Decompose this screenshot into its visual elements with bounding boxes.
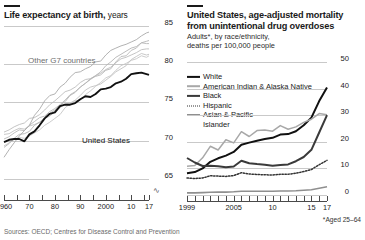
x-axis-tick xyxy=(304,196,305,201)
left-chart-title-bold: Life expectancy at birth, xyxy=(4,10,105,20)
y-axis-label: 85 xyxy=(151,18,173,27)
x-axis-tick xyxy=(195,196,196,201)
x-axis-tick xyxy=(68,195,69,200)
x-axis-tick xyxy=(149,195,150,200)
x-axis-tick xyxy=(280,196,281,201)
right-chart-title-line1: United States, age-adjusted mortality xyxy=(187,10,343,20)
x-axis-label: 2005 xyxy=(225,203,241,212)
right-chart-panel: United States, age-adjusted mortality fr… xyxy=(183,0,365,240)
y-axis-label: 50 xyxy=(329,54,349,63)
x-axis-label: 1999 xyxy=(179,203,195,212)
x-axis-tick xyxy=(80,195,81,200)
x-axis-tick xyxy=(106,195,107,200)
series-line xyxy=(4,73,149,143)
x-axis-tick xyxy=(144,195,145,200)
x-axis-tick xyxy=(131,195,132,200)
annotation-united-states: United States xyxy=(82,136,130,145)
x-axis-tick xyxy=(29,195,30,200)
y-axis-label: 80 xyxy=(151,56,173,65)
y-axis-label: 0 xyxy=(329,187,349,196)
x-axis-tick xyxy=(218,196,219,201)
x-axis-tick xyxy=(187,196,188,201)
x-axis-tick xyxy=(288,196,289,201)
x-axis-tick xyxy=(241,196,242,201)
x-axis-tick xyxy=(265,196,266,201)
title-rule xyxy=(4,5,20,7)
right-chart-title-line2: from unintentional drug overdoses xyxy=(187,21,334,31)
x-axis-tick xyxy=(17,195,18,200)
x-axis-line xyxy=(187,201,327,202)
x-axis-tick xyxy=(203,196,204,201)
x-axis-tick xyxy=(42,195,43,200)
right-chart-title: United States, age-adjusted mortality fr… xyxy=(187,10,365,31)
right-chart-subtitle-line1: Adults*, by race/ethnicity, xyxy=(187,32,269,41)
x-axis-label: 10 xyxy=(127,202,135,211)
y-axis-label: 20 xyxy=(329,133,349,142)
sources-note: Sources: OECD; Centres for Disease Contr… xyxy=(4,228,180,235)
x-axis-tick xyxy=(319,196,320,201)
x-axis-tick xyxy=(119,195,120,200)
x-axis-tick xyxy=(234,196,235,201)
right-chart-subtitle-line2: deaths per 100,000 people xyxy=(187,41,275,50)
left-plot-area: 6570758085196070809020001017∿Other G7 co… xyxy=(4,26,149,194)
x-axis-tick xyxy=(273,196,274,201)
y-axis-label: 10 xyxy=(329,160,349,169)
x-axis-tick xyxy=(249,196,250,201)
series-line xyxy=(4,56,149,146)
x-axis-tick xyxy=(4,195,5,200)
right-chart-footnote: *Aged 25–64 xyxy=(323,216,361,223)
title-rule-right xyxy=(187,5,203,7)
left-series-lines xyxy=(4,26,149,194)
y-axis-label: 30 xyxy=(329,107,349,116)
right-plot-area: 0102030405019992005101517 xyxy=(187,62,327,195)
y-axis-label: 65 xyxy=(151,170,173,179)
y-axis-label: 40 xyxy=(329,80,349,89)
right-chart-subtitle: Adults*, by race/ethnicity, deaths per 1… xyxy=(187,32,362,50)
x-axis-label: 17 xyxy=(323,203,331,212)
x-axis-label: 70 xyxy=(25,202,33,211)
x-axis-tick xyxy=(55,195,56,200)
annotation-other-g7: Other G7 countries xyxy=(28,56,96,65)
x-axis-label: 90 xyxy=(76,202,84,211)
x-axis-tick xyxy=(296,196,297,201)
x-axis-tick xyxy=(311,196,312,201)
x-axis-label: 15 xyxy=(307,203,315,212)
x-axis-tick xyxy=(210,196,211,201)
x-axis-label: 10 xyxy=(268,203,276,212)
x-axis-tick xyxy=(327,196,328,201)
x-axis-label: 1960 xyxy=(0,202,12,211)
x-axis-tick xyxy=(226,196,227,201)
x-axis-line xyxy=(4,200,149,201)
x-axis-label: 80 xyxy=(51,202,59,211)
y-axis-label: 75 xyxy=(151,94,173,103)
x-axis-tick xyxy=(93,195,94,200)
x-axis-label: 17 xyxy=(145,202,153,211)
right-series-lines xyxy=(187,62,327,195)
axis-break-marker: ∿ xyxy=(153,188,160,194)
x-axis-tick xyxy=(257,196,258,201)
series-line xyxy=(187,187,327,193)
left-chart-title-light: years xyxy=(108,10,128,20)
y-axis-label: 70 xyxy=(151,132,173,141)
left-chart-panel: Life expectancy at birth, years 65707580… xyxy=(0,0,183,240)
x-axis-label: 2000 xyxy=(98,202,114,211)
